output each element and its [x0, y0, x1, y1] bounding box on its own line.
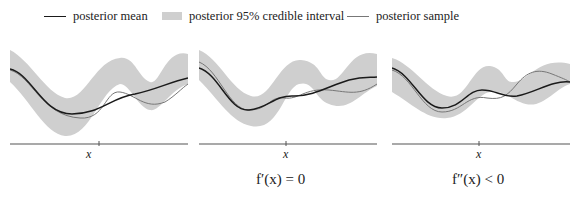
- panel-3-subtitle: f″(x) < 0: [452, 171, 504, 188]
- legend-mean-label: posterior mean: [73, 9, 148, 24]
- panel-2-subtitle: f′(x) = 0: [256, 171, 305, 188]
- panel-2-xlabel: x: [283, 147, 288, 162]
- panel-3-plot: [392, 40, 570, 148]
- mean-line-swatch-icon: [44, 16, 66, 17]
- panel-1-xlabel: x: [86, 147, 91, 162]
- credible-interval-band: [392, 58, 570, 118]
- interval-swatch-icon: [162, 12, 182, 20]
- legend-interval-label: posterior 95% credible interval: [189, 9, 344, 24]
- legend-sample-label: posterior sample: [376, 9, 459, 24]
- legend-item-mean: posterior mean: [44, 6, 148, 26]
- legend: posterior mean posterior 95% credible in…: [0, 6, 577, 26]
- sample-line-swatch-icon: [347, 16, 369, 17]
- panel-2-plot: [199, 40, 377, 148]
- panel-1-plot: [10, 40, 188, 148]
- legend-item-sample: posterior sample: [347, 6, 459, 26]
- panel-3-xlabel: x: [476, 147, 481, 162]
- credible-interval-band: [199, 50, 377, 127]
- legend-item-interval: posterior 95% credible interval: [162, 6, 344, 26]
